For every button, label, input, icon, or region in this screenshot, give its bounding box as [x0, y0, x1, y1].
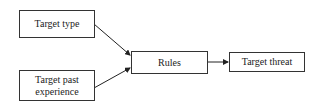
- node-label: Target threat: [242, 56, 292, 68]
- node-label: Target type: [35, 18, 80, 30]
- node-label: Rules: [158, 57, 181, 69]
- node-target-type: Target type: [19, 10, 95, 38]
- arrow-past-experience-to-rules: [94, 68, 130, 88]
- node-label-line-1: Target past: [35, 74, 79, 86]
- node-target-past-experience: Target past experience: [19, 70, 95, 101]
- node-label-line-2: experience: [35, 86, 78, 98]
- node-target-threat: Target threat: [229, 52, 305, 72]
- node-rules: Rules: [131, 51, 208, 74]
- flow-diagram: Target type Target past experience Rules…: [0, 0, 321, 109]
- arrow-target-type-to-rules: [94, 24, 130, 55]
